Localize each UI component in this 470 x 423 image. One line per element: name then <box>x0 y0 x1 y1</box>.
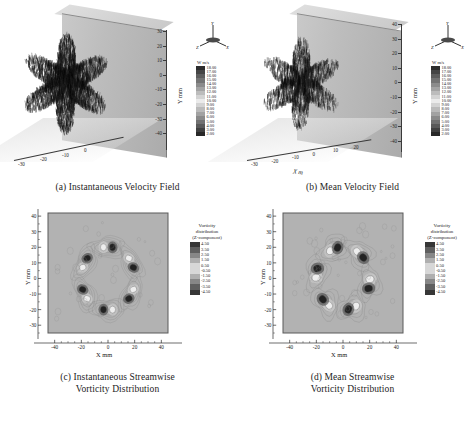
y-tick-label: -20 <box>150 101 162 107</box>
x-tick-label: -30 <box>18 161 25 167</box>
x-tick-label: -40 <box>51 344 58 350</box>
y-tick-label: -30 <box>150 116 162 122</box>
y-tick-label: -10 <box>385 94 397 100</box>
panel-b-axis-triad: Y Z X <box>431 22 465 52</box>
colorbar-tick-label: -4.50 <box>436 289 445 294</box>
colorbar-tick-label: -2.50 <box>436 278 445 283</box>
panel-c-y-axis-label: Y mm <box>24 269 31 285</box>
y-tick-label: 0 <box>385 79 397 85</box>
panel-c-x-axis-label: X mm <box>96 351 112 358</box>
colorbar-tick-label: -2.50 <box>201 278 210 283</box>
x-tick-label: -20 <box>313 344 320 350</box>
svg-text:X: X <box>225 45 229 50</box>
panel-d-caption: (d) Mean Streamwise Vorticity Distributi… <box>235 371 470 395</box>
panel-b-y-axis-label: Y mm <box>411 88 418 104</box>
x-tick-label: 20 <box>354 144 359 150</box>
y-tick-label: 10 <box>266 260 272 266</box>
panel-a-caption: (a) Instantaneous Velocity Field <box>0 181 235 193</box>
y-tick-mark <box>163 89 166 90</box>
panel-b-caption: (b) Mean Velocity Field <box>235 181 470 193</box>
panel-a-axis-triad: Y Z X <box>196 22 230 52</box>
panel-c-plot-background <box>48 213 168 333</box>
panel-c-colorbar-values: 4.503.502.501.500.50-0.50-1.50-2.50-3.50… <box>201 241 210 294</box>
y-tick-label: 40 <box>385 21 397 27</box>
y-tick-label: 20 <box>385 50 397 56</box>
y-tick-mark <box>163 75 166 76</box>
y-tick-mark <box>398 68 401 69</box>
y-tick-mark <box>398 112 401 113</box>
panel-a: Y Z X Y mm W m/s 18.0017.0016.0015.0014.… <box>0 0 235 185</box>
panel-d-colorbar-swatches <box>425 242 435 295</box>
y-tick-mark <box>163 31 166 32</box>
panel-a-y-axis <box>166 30 167 150</box>
colorbar-swatch <box>431 132 440 136</box>
x-tick-label: 40 <box>159 344 165 350</box>
y-tick-mark <box>163 60 166 61</box>
x-tick-label: 20 <box>367 344 373 350</box>
y-tick-label: -40 <box>385 138 397 144</box>
y-tick-label: 20 <box>266 244 272 250</box>
y-tick-mark <box>398 53 401 54</box>
panel-b-colorbar-values: 18.0017.0016.0015.0014.0013.0012.0011.00… <box>442 66 452 137</box>
y-tick-mark <box>163 119 166 120</box>
x-tick-label: -10 <box>62 152 69 158</box>
y-tick-mark <box>398 82 401 83</box>
y-tick-mark <box>398 24 401 25</box>
svg-text:Z: Z <box>431 45 434 50</box>
y-tick-mark <box>398 126 401 127</box>
x-tick-label: -10 <box>292 154 299 160</box>
x-tick-label: -20 <box>40 156 47 162</box>
svg-text:Z: Z <box>196 45 199 50</box>
svg-text:Y: Y <box>211 22 214 26</box>
panel-d-colorbar: Vorticity distribution (Z-component) 4.5… <box>425 242 435 295</box>
x-tick-label: -20 <box>272 158 279 164</box>
panel-d: -40-2002040403020100-10-20-30 Y mm X mm … <box>235 205 470 423</box>
panel-b-y-axis <box>401 24 402 152</box>
velocity-vector-field-b <box>249 24 359 146</box>
y-tick-label: 30 <box>150 28 162 34</box>
x-tick-label: -30 <box>251 161 258 167</box>
velocity-vector-field-a <box>14 24 124 146</box>
x-tick-label: 0 <box>84 147 87 153</box>
colorbar-tick-label: 2.00 <box>442 132 452 136</box>
y-tick-label: 40 <box>266 213 272 219</box>
panel-c-caption: (c) Instantaneous Streamwise Vorticity D… <box>0 371 235 395</box>
y-tick-mark <box>398 97 401 98</box>
panel-c-caption-line2: Vorticity Distribution <box>0 383 235 395</box>
colorbar-tick-label: 2.00 <box>207 132 217 136</box>
panel-c-caption-line1: (c) Instantaneous Streamwise <box>0 371 235 383</box>
y-tick-label: -20 <box>385 109 397 115</box>
x-tick-label: -20 <box>78 344 85 350</box>
svg-text:Y: Y <box>446 22 449 26</box>
colorbar-tick-label: 1.50 <box>201 257 210 262</box>
colorbar-swatch <box>196 132 205 136</box>
y-tick-label: 30 <box>266 229 272 235</box>
y-tick-label: -10 <box>150 86 162 92</box>
x-tick-label: 0 <box>107 344 110 350</box>
y-tick-mark <box>398 141 401 142</box>
y-tick-label: -10 <box>264 291 271 297</box>
y-tick-label: 10 <box>150 57 162 63</box>
y-tick-label: 40 <box>31 213 37 219</box>
colorbar-swatch <box>190 290 200 295</box>
panel-b-x-axis-label: X m <box>293 167 304 175</box>
y-tick-label: 0 <box>34 275 37 281</box>
panel-d-plot-background <box>283 213 403 333</box>
y-tick-label: -30 <box>385 123 397 129</box>
panel-a-y-axis-label: Y mm <box>176 88 183 104</box>
y-tick-mark <box>163 104 166 105</box>
panel-b-colorbar: W m/s 18.0017.0016.0015.0014.0013.0012.0… <box>431 66 440 136</box>
panel-c-colorbar-title: Vorticity distribution (Z-component) <box>184 223 230 242</box>
colorbar-tick-label: 4.50 <box>436 241 445 246</box>
y-tick-label: 0 <box>269 275 272 281</box>
x-tick-label: 40 <box>394 344 400 350</box>
x-tick-label: -40 <box>286 344 293 350</box>
x-tick-label: 0 <box>342 344 345 350</box>
panel-c: -40-2002040403020100-10-20-30 Y mm X mm … <box>0 205 235 423</box>
panel-b: Y Z X Y mm X m W m/s 18.0017.0016.0015.0… <box>235 0 470 185</box>
panel-c-colorbar: Vorticity distribution (Z-component) 4.5… <box>190 242 200 295</box>
panel-c-colorbar-swatches <box>190 242 200 295</box>
y-tick-label: -10 <box>29 291 36 297</box>
panel-a-colorbar: W m/s 18.0017.0016.0015.0014.0013.0012.0… <box>196 66 205 136</box>
colorbar-tick-label: 4.50 <box>201 241 210 246</box>
